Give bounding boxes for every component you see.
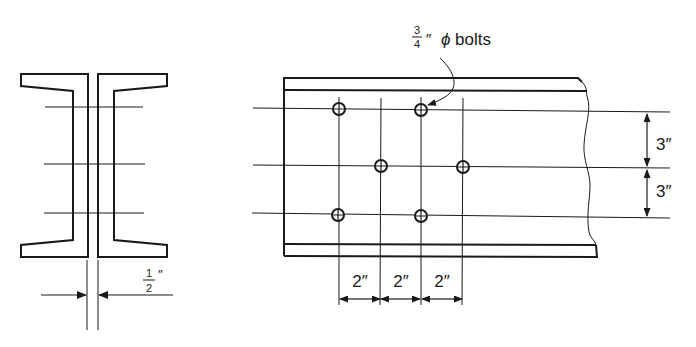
bolt-hole — [332, 209, 344, 221]
plate-flange-bottom — [284, 244, 596, 245]
gap-numerator: 1 — [146, 267, 152, 279]
gage-line-3 — [252, 213, 670, 218]
break-line — [582, 82, 596, 245]
horizontal-dim-label-1: 2″ — [352, 272, 367, 291]
bolt-column-line-4 — [462, 98, 463, 305]
diameter-symbol: ϕ — [441, 30, 450, 49]
gage-line-1 — [253, 108, 670, 112]
bolt-size-denominator: 4 — [414, 38, 420, 50]
bolt-callout-text: bolts — [455, 30, 491, 49]
plan-view — [252, 78, 670, 305]
vertical-dim-label-1: 3″ — [656, 135, 671, 154]
bolt-hole — [375, 160, 387, 172]
bolts — [332, 103, 469, 222]
plate-flange-top — [284, 90, 587, 91]
right-channel-section — [98, 74, 167, 257]
gap-dimension-label: 1 2 ″ — [143, 267, 163, 294]
leader-arrow — [428, 58, 454, 105]
bolt-column-line-2 — [380, 98, 381, 305]
bolted-connection-diagram: 1 2 ″ 3 4 ″ ϕ b — [0, 0, 696, 347]
bolt-size-unit: ″ — [426, 30, 432, 47]
gap-unit: ″ — [158, 267, 163, 282]
bolt-hole — [415, 210, 427, 222]
bolt-size-numerator: 3 — [414, 24, 420, 36]
plate-bottom-edge — [284, 245, 597, 257]
bolt-callout: 3 4 ″ ϕ bolts — [412, 24, 491, 105]
horizontal-dim-label-2: 2″ — [393, 272, 408, 291]
gap-denominator: 2 — [146, 282, 152, 294]
vertical-dim-label-2: 3″ — [656, 182, 671, 201]
horizontal-dim-label-3: 2″ — [434, 272, 449, 291]
bolt-hole — [457, 161, 469, 173]
bolt-hole — [415, 104, 427, 116]
bolt-hole — [333, 103, 345, 115]
left-channel-section — [21, 74, 88, 257]
